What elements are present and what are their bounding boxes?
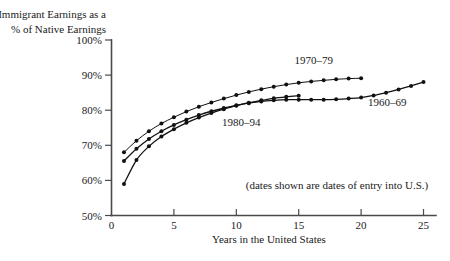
x-tick-label: 15 [293, 219, 305, 231]
y-tick-label: 100% [76, 34, 102, 46]
y-axis-title: Immigrant Earnings as a % of Native Earn… [0, 8, 106, 35]
x-tick-label: 25 [418, 219, 430, 231]
data-point [272, 96, 276, 100]
data-point [322, 98, 326, 102]
data-point [184, 110, 188, 114]
x-axis: 0510152025 [109, 209, 430, 231]
series-label-1960-69: 1960–69 [368, 96, 407, 108]
data-point [347, 97, 351, 101]
data-point [297, 94, 301, 98]
data-point [172, 127, 176, 131]
series-label-1980-94: 1980–94 [222, 116, 261, 128]
data-point [197, 116, 201, 120]
chart-figure: Immigrant Earnings as a % of Native Earn… [0, 0, 450, 261]
y-tick-label: 50% [82, 210, 102, 222]
data-point [134, 139, 138, 143]
data-point [147, 129, 151, 133]
data-point [184, 121, 188, 125]
data-point [222, 97, 226, 101]
data-point [172, 123, 176, 127]
data-point [234, 104, 238, 108]
data-point [334, 97, 338, 101]
data-point [309, 98, 313, 102]
data-point [384, 91, 388, 95]
data-point [347, 77, 351, 81]
data-point [247, 90, 251, 94]
series-container [122, 76, 426, 186]
data-point [359, 76, 363, 80]
series-label-1970-79: 1970–79 [294, 54, 333, 66]
immigrant-earnings-line-chart: Immigrant Earnings as a % of Native Earn… [0, 0, 450, 261]
data-point [159, 135, 163, 139]
y-tick-label: 80% [82, 104, 102, 116]
data-point [284, 83, 288, 87]
series-line [124, 82, 424, 161]
y-tick-label: 90% [82, 69, 102, 81]
x-axis-label: Years in the United States [212, 233, 326, 245]
data-point [234, 93, 238, 97]
data-point [134, 147, 138, 151]
series-1960-69 [122, 80, 426, 163]
y-axis: 50%60%70%80%90%100% [76, 34, 112, 222]
data-point [122, 150, 126, 154]
data-point [272, 85, 276, 89]
data-point [284, 95, 288, 99]
data-point [159, 129, 163, 133]
data-point [259, 98, 263, 102]
data-point [422, 80, 426, 84]
data-point [209, 111, 213, 115]
x-tick-label: 0 [109, 219, 115, 231]
data-point [297, 98, 301, 102]
data-point [159, 122, 163, 126]
chart-annotation: (dates shown are dates of entry into U.S… [246, 179, 429, 192]
data-point [309, 79, 313, 83]
x-tick-label: 10 [231, 219, 243, 231]
y-tick-label: 60% [82, 174, 102, 186]
data-point [147, 144, 151, 148]
x-tick-label: 5 [171, 219, 177, 231]
data-point [259, 87, 263, 91]
y-axis-title-line-1: Immigrant Earnings as a [0, 8, 106, 20]
data-point [397, 87, 401, 91]
data-point [122, 182, 126, 186]
x-tick-label: 20 [356, 219, 368, 231]
data-point [197, 105, 201, 109]
data-point [247, 101, 251, 105]
y-tick-label: 70% [82, 139, 102, 151]
data-point [172, 115, 176, 119]
data-point [334, 77, 338, 81]
data-point [122, 159, 126, 163]
data-point [409, 84, 413, 88]
data-point [359, 96, 363, 100]
data-point [147, 137, 151, 141]
data-point [297, 81, 301, 85]
data-point [134, 158, 138, 162]
data-point [322, 78, 326, 82]
data-point [222, 107, 226, 111]
data-point [209, 100, 213, 104]
